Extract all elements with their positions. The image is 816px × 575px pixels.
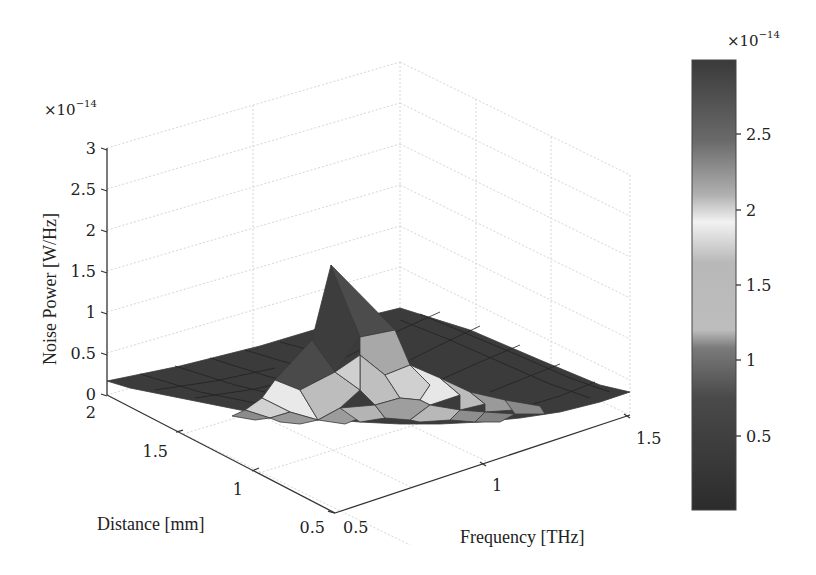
z-axis-label: Noise Power [W/Hz] (40, 213, 60, 365)
svg-text:2: 2 (746, 201, 756, 220)
svg-text:0.5: 0.5 (300, 518, 325, 537)
svg-text:1: 1 (86, 303, 96, 322)
svg-text:2: 2 (86, 403, 96, 422)
svg-text:1: 1 (233, 480, 243, 499)
svg-text:1.5: 1.5 (636, 429, 661, 448)
frequency-tick-labels: 0.5 1 1.5 (343, 429, 661, 537)
svg-text:2.5: 2.5 (71, 180, 96, 199)
svg-text:2: 2 (86, 221, 96, 240)
colorbar-multiplier: ×10−14 (727, 29, 780, 50)
svg-text:2.5: 2.5 (746, 125, 771, 144)
svg-text:1.5: 1.5 (71, 262, 96, 281)
svg-text:1.5: 1.5 (143, 442, 168, 461)
svg-text:3: 3 (86, 139, 96, 158)
z-multiplier: ×10−14 (44, 98, 97, 119)
colorbar: 2.5 2 1.5 1 0.5 ×10−14 (692, 29, 780, 510)
distance-axis-label: Distance [mm] (97, 514, 204, 534)
frequency-axis-label: Frequency [THz] (460, 527, 584, 547)
svg-text:0.5: 0.5 (71, 344, 96, 363)
svg-text:1: 1 (746, 351, 756, 370)
svg-text:1: 1 (492, 476, 502, 495)
svg-text:0.5: 0.5 (343, 518, 368, 537)
surface-chart: 0 0.5 1 1.5 2 2.5 3 ×10−14 2 1.5 1 0.5 0… (0, 0, 816, 575)
svg-text:0.5: 0.5 (746, 427, 771, 446)
svg-text:1.5: 1.5 (746, 276, 771, 295)
z-tick-labels: 0 0.5 1 1.5 2 2.5 3 (71, 139, 96, 404)
svg-text:0: 0 (86, 385, 96, 404)
